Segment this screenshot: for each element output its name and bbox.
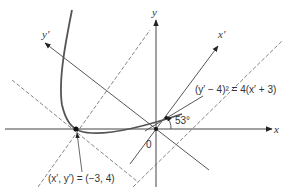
equation-label: (y′ − 4)² = 4(x′ + 3)	[195, 84, 276, 95]
vertex-pointer	[77, 133, 82, 172]
auxiliary-line	[145, 96, 203, 131]
origin-label: 0	[146, 139, 152, 150]
origin-point	[154, 127, 158, 131]
x-prime-label: x′	[217, 28, 226, 40]
x-prime-parallel-through-vertex	[38, 30, 150, 187]
y-axis-label: y	[151, 6, 157, 18]
parabola-curve	[61, 10, 182, 133]
vertex-label: (x′, y′) = (−3, 4)	[48, 173, 115, 184]
x-axis-label: x	[273, 123, 279, 135]
vertex-point	[74, 127, 79, 132]
angle-label: 53°	[175, 115, 190, 126]
parabola-diagram: y x x′ y′ 0 53° (y′ − 4)² = 4(x′ + 3) (x…	[0, 0, 283, 187]
y-prime-label: y′	[41, 28, 50, 40]
